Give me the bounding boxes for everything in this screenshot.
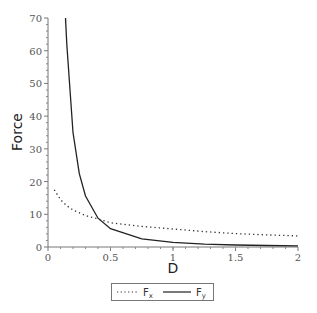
plot-area xyxy=(54,18,298,246)
y-tick-label: 20 xyxy=(29,177,42,188)
force-chart: 00.511.52010203040506070 D Force xyxy=(0,0,317,313)
axes: 00.511.52010203040506070 xyxy=(29,13,301,263)
series-fy xyxy=(66,18,299,246)
y-tick-label: 60 xyxy=(29,46,42,57)
legend: Fx Fy xyxy=(111,283,214,301)
x-tick-label: 0 xyxy=(45,252,51,263)
series-fx xyxy=(54,190,298,236)
legend-fx-label: Fx xyxy=(143,287,153,300)
x-tick-label: 1.5 xyxy=(228,252,244,263)
legend-graphics: Fx Fy xyxy=(112,284,213,300)
y-tick-label: 40 xyxy=(29,111,42,122)
legend-fy-label: Fy xyxy=(196,287,206,300)
x-axis-title: D xyxy=(168,260,179,276)
y-tick-label: 70 xyxy=(29,13,42,24)
y-tick-label: 30 xyxy=(29,144,42,155)
y-tick-label: 0 xyxy=(36,242,42,253)
x-tick-label: 0.5 xyxy=(103,252,119,263)
y-axis-title: Force xyxy=(9,113,25,151)
x-tick-label: 2 xyxy=(295,252,301,263)
y-tick-label: 10 xyxy=(29,209,42,220)
y-tick-label: 50 xyxy=(29,78,42,89)
